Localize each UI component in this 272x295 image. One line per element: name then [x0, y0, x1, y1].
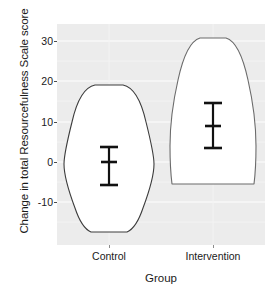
plot-panel-svg: [57, 24, 265, 245]
y-tick-label-minus-10: -10: [23, 196, 53, 208]
y-tick-label-30: 30: [23, 35, 53, 47]
y-tick-label-20: 20: [23, 75, 53, 87]
y-tick-label-10: 10: [23, 116, 53, 128]
x-tick-mark-control: [109, 245, 110, 248]
x-tick-label-intervention: Intervention: [186, 250, 241, 262]
plot-panel: [57, 24, 265, 245]
y-axis-tick-labels: 30 20 10 0 -10: [20, 0, 53, 295]
x-tick-label-control: Control: [92, 250, 126, 262]
violin-plot-figure: Change in total Resourcefulness Scale sc…: [0, 0, 272, 295]
x-tick-mark-intervention: [213, 245, 214, 248]
y-tick-label-0: 0: [23, 156, 53, 168]
x-axis-title: Group: [57, 272, 265, 284]
